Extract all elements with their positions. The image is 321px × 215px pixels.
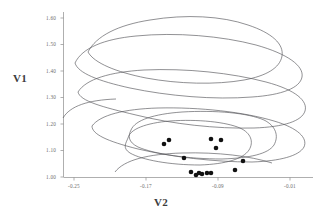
contour-lower-mid (92, 108, 305, 162)
contour-upper-mid (75, 34, 302, 98)
y-axis-title: V1 (13, 72, 27, 84)
x-tick-label: -0.01 (275, 183, 305, 189)
contour-mid (78, 70, 305, 129)
data-point (233, 168, 238, 173)
data-point (219, 138, 224, 143)
data-point (194, 173, 199, 178)
x-tick-label: -0.09 (203, 183, 233, 189)
x-tick-label: -0.17 (131, 183, 161, 189)
data-point (200, 172, 205, 177)
scatter-chart: V1 V2 1.60 1.50 1.40 1.30 1.20 1.10 1.00… (0, 0, 321, 215)
y-tick-label: 1.20 (34, 121, 56, 127)
contour-curves (63, 17, 305, 172)
y-tick-label: 1.30 (34, 94, 56, 100)
x-axis-title: V2 (154, 196, 168, 208)
y-tick-label: 1.00 (34, 174, 56, 180)
x-tick-label: -0.25 (59, 183, 89, 189)
y-tick-label: 1.50 (34, 41, 56, 47)
y-tick-label: 1.60 (34, 15, 56, 21)
x-tick-marks (74, 178, 290, 181)
data-point (214, 146, 219, 151)
data-point (162, 142, 167, 147)
y-tick-label: 1.40 (34, 68, 56, 74)
data-point (209, 137, 214, 142)
data-point (241, 159, 246, 164)
data-point (209, 171, 214, 176)
data-point (189, 170, 194, 175)
contour-tail-lower (115, 153, 272, 172)
data-point (182, 156, 187, 161)
data-point (205, 171, 210, 176)
y-tick-label: 1.10 (34, 147, 56, 153)
data-points (162, 137, 246, 178)
y-tick-marks (61, 18, 64, 177)
data-point (167, 138, 172, 143)
